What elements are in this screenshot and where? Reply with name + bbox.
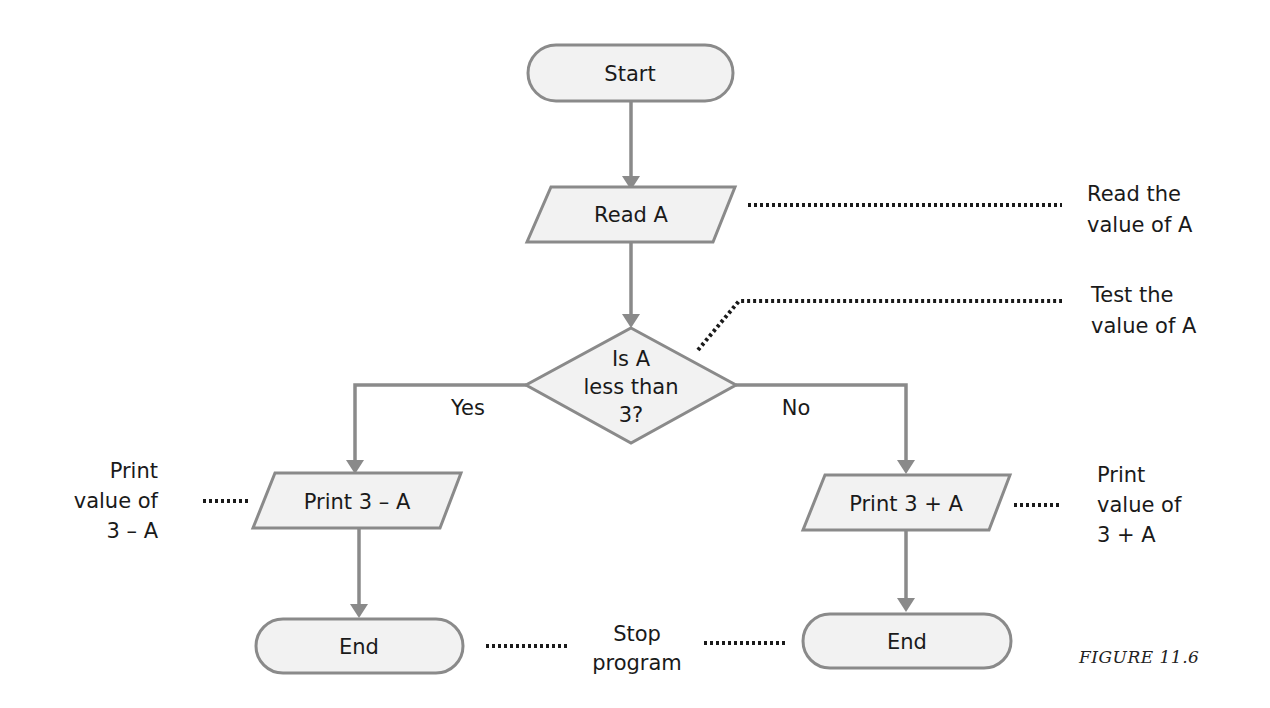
- decision-line2: less than: [583, 375, 678, 399]
- annotation-read: Read the value of A: [1087, 182, 1193, 237]
- read-label: Read A: [594, 203, 668, 227]
- decision-line3: 3?: [619, 403, 644, 427]
- annotation-stop-line1: Stop: [613, 622, 661, 646]
- annotation-stop: Stop program: [592, 622, 682, 675]
- arrow-head: [897, 460, 915, 474]
- annotation-print-plus-line3: 3 + A: [1097, 523, 1156, 547]
- print-plus-node: Print 3 + A: [803, 475, 1010, 530]
- annotation-test-line2: value of A: [1091, 314, 1197, 338]
- end-left-label: End: [339, 635, 379, 659]
- print-minus-node: Print 3 – A: [253, 473, 461, 528]
- annotation-print-plus: Print value of 3 + A: [1097, 463, 1182, 547]
- yes-label: Yes: [450, 396, 485, 420]
- start-node: Start: [528, 45, 733, 101]
- annotation-print-minus-line1: Print: [110, 459, 158, 483]
- flowchart: Start Read A Is A less than 3? Yes No Pr…: [0, 0, 1270, 708]
- print-minus-label: Print 3 – A: [304, 490, 411, 514]
- annotation-read-line2: value of A: [1087, 213, 1193, 237]
- figure-caption: FIGURE 11.6: [1078, 647, 1199, 667]
- annotation-read-line1: Read the: [1087, 182, 1181, 206]
- annotation-stop-line2: program: [592, 651, 682, 675]
- start-label: Start: [604, 62, 655, 86]
- leader-test: [698, 301, 1062, 350]
- end-right-label: End: [887, 630, 927, 654]
- connector-no-branch: [736, 385, 906, 462]
- end-right-node: End: [803, 614, 1011, 668]
- annotation-test: Test the value of A: [1090, 283, 1197, 338]
- arrow-head: [897, 598, 915, 612]
- annotation-print-minus-line2: value of: [74, 489, 159, 513]
- end-left-node: End: [256, 619, 463, 673]
- annotation-print-minus: Print value of 3 – A: [74, 459, 159, 543]
- arrow-head: [622, 314, 640, 328]
- connector-yes-branch: [355, 385, 526, 462]
- annotation-test-line1: Test the: [1090, 283, 1174, 307]
- arrow-head: [350, 604, 368, 618]
- read-node: Read A: [527, 187, 735, 242]
- annotation-print-plus-line2: value of: [1097, 493, 1182, 517]
- annotation-print-minus-line3: 3 – A: [106, 519, 158, 543]
- no-label: No: [782, 396, 811, 420]
- decision-line1: Is A: [612, 347, 651, 371]
- print-plus-label: Print 3 + A: [849, 492, 963, 516]
- annotation-print-plus-line1: Print: [1097, 463, 1145, 487]
